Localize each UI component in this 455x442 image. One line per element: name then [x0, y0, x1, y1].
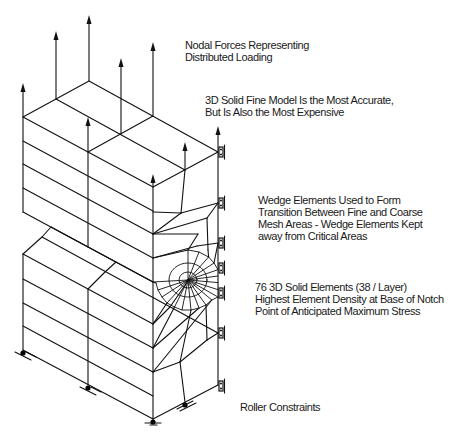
wedge-elements-label: Wedge Elements Used to Form Transition B… — [258, 194, 423, 242]
roller-icon — [145, 419, 161, 425]
roller-icon — [219, 326, 225, 340]
roller-icon — [219, 286, 225, 300]
roller-icon — [219, 261, 225, 275]
roller-constraints-bottom — [15, 350, 196, 425]
nodal-force-arrow-icon — [87, 15, 92, 81]
fine-model-label: 3D Solid Fine Model Is the Most Accurate… — [205, 94, 393, 118]
wedge-elements-label-line-2: Transition Between Fine and Coarse — [258, 206, 423, 218]
wedge-elements-label-line-3: Mesh Areas - Wedge Elements Kept — [258, 218, 423, 230]
roller-icon — [15, 350, 36, 360]
nodal-force-arrow-icon — [151, 174, 156, 187]
wedge-elements-label-line-1: Wedge Elements Used to Form — [258, 194, 423, 206]
nodal-forces-label-line-2: Distributed Loading — [185, 51, 309, 63]
roller-icon — [219, 236, 225, 250]
nodal-forces-label-line-1: Nodal Forces Representing — [185, 39, 309, 51]
roller-constraints-label: Roller Constraints — [240, 401, 320, 413]
nodal-force-arrow-icon — [151, 42, 156, 116]
fine-model-label-line-1: 3D Solid Fine Model Is the Most Accurate… — [205, 94, 393, 106]
roller-icon — [177, 401, 196, 411]
roller-icon — [219, 379, 225, 393]
nodal-forces-label: Nodal Forces Representing Distributed Lo… — [185, 39, 309, 63]
roller-constraints-label-line-1: Roller Constraints — [240, 401, 320, 413]
solid-elements-label-line-3: Point of Anticipated Maximum Stress — [255, 305, 444, 317]
notch-fine-mesh — [153, 250, 218, 310]
roller-icon — [219, 196, 225, 210]
nodal-force-arrow-icon — [54, 31, 59, 99]
solid-elements-label-line-1: 76 3D Solid Elements (38 / Layer) — [255, 281, 444, 293]
fea-mesh-diagram: Nodal Forces Representing Distributed Lo… — [0, 0, 455, 442]
nodal-force-arrow-icon — [119, 58, 124, 134]
roller-icon — [80, 385, 101, 395]
solid-elements-label: 76 3D Solid Elements (38 / Layer) Highes… — [255, 281, 444, 317]
wedge-elements-label-line-4: away from Critical Areas — [258, 230, 423, 242]
nodal-force-arrow-icon — [183, 142, 188, 170]
roller-icon — [219, 145, 225, 159]
solid-elements-label-line-2: Highest Element Density at Base of Notch — [255, 293, 444, 305]
roller-constraints-side — [219, 145, 225, 393]
fine-model-label-line-2: But Is Also the Most Expensive — [205, 106, 393, 118]
nodal-force-arrow-icon — [86, 117, 91, 152]
nodal-force-arrow-icon — [21, 83, 26, 117]
